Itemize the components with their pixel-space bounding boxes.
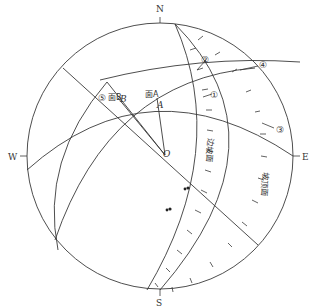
pole-b-label: B	[119, 94, 127, 104]
west-label: W	[8, 152, 18, 162]
intersection-1-label: ①	[210, 90, 218, 100]
intersection-2-label: ②	[201, 55, 209, 65]
data-points	[166, 186, 190, 211]
plane-d-arc	[100, 60, 300, 80]
slope-top-label: 坡顶面	[259, 172, 271, 197]
center-label: O	[163, 149, 171, 159]
intersection-3-label: ③	[276, 125, 284, 135]
leader-3	[262, 123, 274, 128]
slope-face-label: 边坡面	[204, 138, 216, 163]
slope-face-hatches	[155, 48, 213, 287]
north-label: N	[156, 4, 164, 14]
diameter-line	[63, 68, 258, 245]
pole-a-label: A	[156, 100, 164, 110]
intersection-4-label: ④	[259, 60, 267, 70]
south-label: S	[156, 298, 162, 307]
plane-c-arc	[54, 82, 107, 250]
stereonet-diagram: N S W E	[0, 0, 317, 307]
intersection-5-label: ⑤	[98, 93, 106, 103]
slope-top-hatches	[172, 36, 267, 292]
leader-4	[240, 66, 258, 70]
plane-a-label: 面A	[145, 90, 159, 99]
east-label: E	[302, 152, 309, 162]
